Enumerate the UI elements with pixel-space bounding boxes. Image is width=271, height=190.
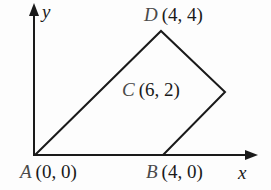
vertex-d-name: D xyxy=(144,4,158,25)
vertex-d-coords: (4, 4) xyxy=(162,4,203,25)
vertex-label-d: D(4, 4) xyxy=(144,5,203,24)
vertex-label-c: C(6, 2) xyxy=(122,80,180,99)
vertex-a-name: A xyxy=(20,161,32,182)
diagram-canvas: y x A(0, 0) B(4, 0) C(6, 2) D(4, 4) xyxy=(0,0,271,190)
vertex-c-coords: (6, 2) xyxy=(139,79,180,100)
vertex-a-coords: (0, 0) xyxy=(36,161,77,182)
vertex-label-b: B(4, 0) xyxy=(146,162,203,181)
vertex-label-a: A(0, 0) xyxy=(20,162,77,181)
vertex-b-coords: (4, 0) xyxy=(162,161,203,182)
x-axis-arrow-icon xyxy=(245,150,258,160)
vertex-c-name: C xyxy=(122,79,135,100)
x-axis-label: x xyxy=(238,163,246,182)
y-axis-arrow-icon xyxy=(29,3,39,16)
y-axis-label: y xyxy=(42,2,50,21)
vertex-b-name: B xyxy=(146,161,158,182)
